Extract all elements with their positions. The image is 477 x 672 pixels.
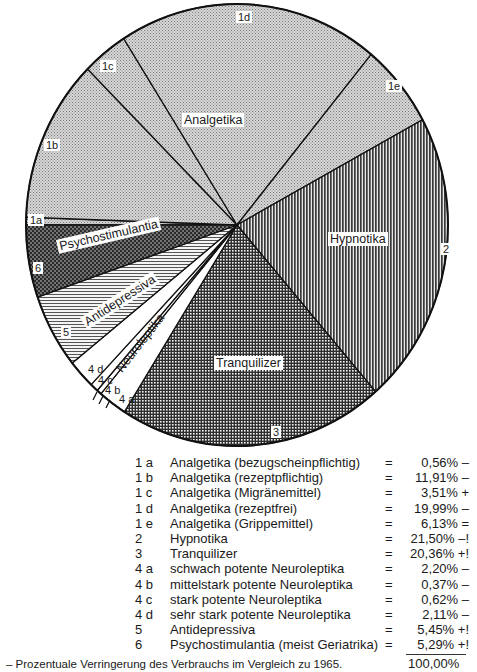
legend-code: 1 c xyxy=(135,485,152,501)
legend-row: 1 aAnalgetika (bezugscheinpflichtig)=0,5… xyxy=(0,455,477,471)
tick-4c xyxy=(99,396,103,404)
legend-code: 1 d xyxy=(135,501,153,517)
legend-code: 1 a xyxy=(135,455,153,471)
legend-code: 1 b xyxy=(135,470,153,486)
legend-code: 4 c xyxy=(135,592,152,608)
legend-value: 0,56% – xyxy=(389,455,469,471)
group-label-hypnotika: Hypnotika xyxy=(328,232,388,246)
legend-value: 0,37% – xyxy=(389,577,469,593)
legend-row: 4 dsehr stark potente Neuroleptika=2,11%… xyxy=(0,607,477,623)
legend-value: 19,99% – xyxy=(389,501,469,517)
legend-code: 4 a xyxy=(135,561,153,577)
legend-total: 100,00% xyxy=(408,656,459,672)
legend-name: Analgetika (Migränemittel) xyxy=(170,485,321,501)
pie-wedges xyxy=(26,4,448,446)
slice-label-6: 6 xyxy=(33,262,43,274)
legend-name: Antidepressiva xyxy=(170,622,255,638)
legend-value: 0,62% – xyxy=(389,592,469,608)
legend-code: 4 d xyxy=(135,607,153,623)
legend-code: 3 xyxy=(135,546,142,562)
legend-name: Analgetika (bezugscheinpflichtig) xyxy=(170,455,360,471)
legend-row: 4 bmittelstark potente Neuroleptika=0,37… xyxy=(0,577,477,593)
legend-row: 2Hypnotika=21,50% –! xyxy=(0,531,477,547)
pie-chart: 1d 1c 1e 1b 1a Analgetika Hypnotika 2 Tr… xyxy=(0,0,477,450)
legend-row: 1 bAnalgetika (rezeptpflichtig)=11,91% – xyxy=(0,470,477,486)
legend-code: 5 xyxy=(135,622,142,638)
legend-name: Psychostimulantia (meist Geriatrika) xyxy=(170,637,378,653)
legend-code: 6 xyxy=(135,637,142,653)
legend-row: 1 dAnalgetika (rezeptfrei)=19,99% – xyxy=(0,501,477,517)
legend-row: 5Antidepressiva=5,45% +! xyxy=(0,622,477,638)
legend-name: sehr stark potente Neuroleptika xyxy=(170,607,351,623)
group-label-tranquilizer: Tranquilizer xyxy=(214,356,283,370)
legend-value: 2,20% – xyxy=(389,561,469,577)
legend-name: Tranquilizer xyxy=(170,546,237,562)
legend-code: 1 e xyxy=(135,516,153,532)
slice-label-3: 3 xyxy=(271,426,281,438)
legend-value: 5,29% +! xyxy=(389,637,469,653)
legend-row: 3Tranquilizer=20,36% +! xyxy=(0,546,477,562)
pie-graphic xyxy=(0,0,477,450)
slice-label-2: 2 xyxy=(441,243,451,255)
legend-name: mittelstark potente Neuroleptika xyxy=(170,577,353,593)
legend-value: 3,51% + xyxy=(389,485,469,501)
slice-label-1d: 1d xyxy=(236,11,252,23)
total-rule xyxy=(406,654,466,655)
legend-name: schwach potente Neuroleptika xyxy=(170,561,344,577)
legend-name: Analgetika (rezeptpflichtig) xyxy=(170,470,323,486)
legend-value: 20,36% +! xyxy=(389,546,469,562)
tick-4b xyxy=(93,392,97,400)
legend-row: 6Psychostimulantia (meist Geriatrika)=5,… xyxy=(0,637,477,653)
slice-label-1c: 1c xyxy=(100,60,116,72)
legend-name: Hypnotika xyxy=(170,531,228,547)
legend-row: 1 cAnalgetika (Migränemittel)=3,51% + xyxy=(0,485,477,501)
legend-value: 21,50% –! xyxy=(389,531,469,547)
slice-label-1a: 1a xyxy=(28,214,44,226)
legend-value: 11,91% – xyxy=(389,470,469,486)
slice-label-4a: 4 a xyxy=(117,393,136,405)
slice-label-5: 5 xyxy=(61,326,71,338)
footnote: – Prozentuale Verringerung des Verbrauch… xyxy=(6,657,342,671)
legend-code: 4 b xyxy=(135,577,153,593)
legend-value: 6,13% = xyxy=(389,516,469,532)
legend-value: 5,45% +! xyxy=(389,622,469,638)
legend-row: 1 eAnalgetika (Grippemittel)=6,13% = xyxy=(0,516,477,532)
legend-row: 4 cstark potente Neuroleptika=0,62% – xyxy=(0,592,477,608)
legend-name: Analgetika (rezeptfrei) xyxy=(170,501,297,517)
legend-row: 4 aschwach potente Neuroleptika=2,20% – xyxy=(0,561,477,577)
legend-value: 2,11% – xyxy=(389,607,469,623)
legend-code: 2 xyxy=(135,531,142,547)
slice-label-1b: 1b xyxy=(44,139,60,151)
group-label-analgetika: Analgetika xyxy=(182,113,244,127)
slice-label-1e: 1e xyxy=(386,80,402,92)
legend-name: Analgetika (Grippemittel) xyxy=(170,516,313,532)
legend-name: stark potente Neuroleptika xyxy=(170,592,322,608)
